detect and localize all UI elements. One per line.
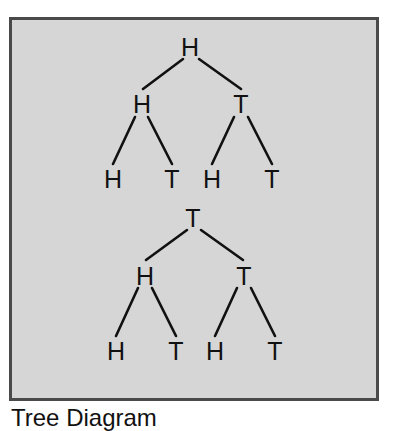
tree-1-leaf-node-3: H <box>203 167 221 192</box>
tree-2-leaf-node-1: H <box>107 339 125 364</box>
diagram-caption: Tree Diagram <box>11 406 157 430</box>
tree-2-level2-node-right: T <box>236 264 251 289</box>
tree-2-leaf-node-3: H <box>206 339 224 364</box>
tree-2-level2-node-left: H <box>136 264 154 289</box>
tree-2-root-node: T <box>185 206 200 231</box>
tree-1-level2-node-right: T <box>233 92 248 117</box>
tree-1-root-node: H <box>181 35 199 60</box>
tree-1-leaf-node-4: T <box>264 167 279 192</box>
tree-2-leaf-node-4: T <box>267 339 282 364</box>
tree-2-leaf-node-2: T <box>168 339 183 364</box>
tree-1-level2-node-left: H <box>133 92 151 117</box>
tree-1-leaf-node-1: H <box>104 167 122 192</box>
tree-1-leaf-node-2: T <box>164 167 179 192</box>
